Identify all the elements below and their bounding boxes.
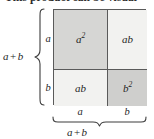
cell-b-squared-label: b2 [123, 83, 132, 94]
bottom-total-label: a+b [0, 126, 154, 138]
cell-ab-bottom-left: ab [54, 70, 108, 106]
left-total-label: a+b [3, 50, 23, 62]
left-segment-label-a: a [43, 33, 53, 44]
cell-a-squared-label: a2 [76, 34, 85, 45]
left-total-term-1: a [3, 50, 9, 62]
cell-b-squared: b2 [108, 70, 147, 106]
caption-strip: This product can be visual [0, 0, 154, 5]
left-total-term-2: b [18, 50, 24, 62]
cell-ab-top-right-label: ab [122, 34, 133, 45]
cell-ab-bottom-left-label: ab [75, 83, 86, 94]
bottom-total-term-2: b [82, 126, 88, 138]
expansion-square: a2 ab ab b2 [53, 9, 146, 105]
bottom-segment-label-a: a [73, 106, 87, 117]
left-total-operator: + [9, 50, 18, 62]
bottom-total-operator: + [72, 126, 81, 138]
bottom-segment-label-b: b [120, 106, 134, 117]
cell-a-squared: a2 [54, 10, 108, 70]
cell-ab-top-right: ab [108, 10, 147, 70]
left-segment-label-b: b [43, 82, 53, 93]
caption-text: This product can be visual [5, 0, 137, 3]
algebra-square-figure: This product can be visual a2 ab ab b2 a… [0, 0, 154, 139]
